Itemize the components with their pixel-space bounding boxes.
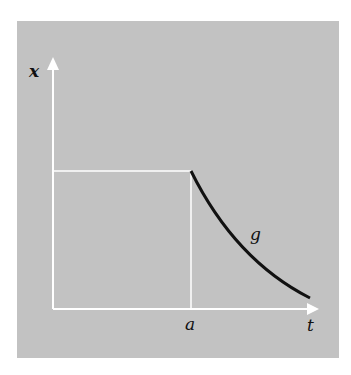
x-axis-arrow-icon [307, 303, 319, 315]
y-axis [47, 57, 59, 309]
curve-label: g [250, 224, 261, 244]
x-axis-label: t [307, 315, 314, 335]
y-axis-arrow-icon [47, 57, 59, 70]
a-label: a [185, 314, 195, 334]
y-axis-label: x [28, 61, 40, 81]
diagram: x t a g [0, 0, 351, 375]
